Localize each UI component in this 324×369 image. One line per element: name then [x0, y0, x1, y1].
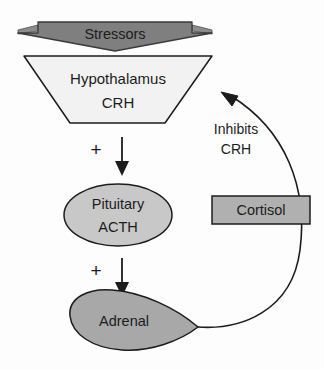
hpa-axis-diagram: Stressors Hypothalamus CRH + Pituitary A… — [0, 0, 324, 369]
edge-label-inhibits-crh: Inhibits CRH — [214, 121, 258, 157]
plus-sign-hypothalamus-pituitary: + — [90, 139, 101, 160]
pituitary-label-line2: ACTH — [98, 219, 137, 235]
diagram-canvas: Stressors Hypothalamus CRH + Pituitary A… — [0, 0, 324, 369]
inhibits-crh-line1: Inhibits — [214, 121, 258, 137]
plus-sign-pituitary-adrenal: + — [90, 260, 101, 281]
arrow1-head — [115, 161, 129, 176]
node-pituitary[interactable]: Pituitary ACTH — [64, 184, 172, 246]
node-adrenal[interactable]: Adrenal — [70, 290, 198, 350]
hypothalamus-label-line1: Hypothalamus — [70, 70, 166, 87]
stressors-label: Stressors — [84, 26, 145, 42]
node-hypothalamus[interactable]: Hypothalamus CRH — [24, 56, 212, 123]
cortisol-label: Cortisol — [236, 202, 285, 218]
hypothalamus-shape — [24, 56, 212, 123]
edge-hypothalamus-to-pituitary: + — [90, 137, 129, 176]
adrenal-label: Adrenal — [99, 313, 149, 329]
pituitary-shape — [64, 184, 172, 246]
inhibits-crh-line2: CRH — [221, 141, 251, 157]
pituitary-label-line1: Pituitary — [92, 196, 145, 212]
feedback-arrowhead — [221, 92, 238, 106]
hypothalamus-label-line2: CRH — [102, 94, 135, 111]
node-cortisol[interactable]: Cortisol — [212, 196, 310, 224]
node-stressors[interactable]: Stressors — [18, 22, 212, 51]
